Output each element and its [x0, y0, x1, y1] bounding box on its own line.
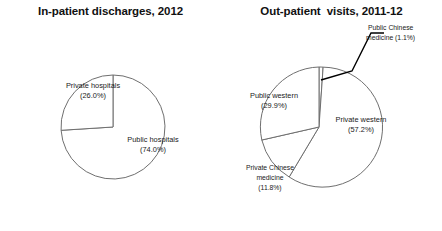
pie-label-private-chinese-medicine-value: (11.8%): [258, 184, 281, 192]
chart-panel-inpatient: In-patient discharges, 2012 Private hosp…: [0, 0, 221, 231]
pie-label-public-western-name: Public western: [250, 91, 298, 100]
pie-label-public-chinese-medicine-line1: Public Chinese: [368, 24, 414, 31]
pie-chart-inpatient: Private hospitals (26.0%) Public hospita…: [0, 0, 221, 231]
pie-label-private-chinese-medicine-line1: Private Chinese: [246, 164, 294, 171]
pie-label-private-western-value: (57.2%): [348, 125, 374, 134]
pie-chart-outpatient: Public western (29.9%) Private western (…: [221, 0, 442, 231]
pie-label-public-chinese-medicine-line2: medicine (1.1%): [366, 34, 415, 42]
pie-label-private-hospitals-value: (26.0%): [80, 91, 106, 100]
pie-label-private-chinese-medicine-line2: medicine: [256, 174, 283, 181]
pie-label-public-hospitals-value: (74.0%): [140, 145, 166, 154]
pie-label-private-hospitals-name: Private hospitals: [66, 81, 121, 90]
pie-label-public-western-value: (29.9%): [261, 101, 287, 110]
pie-label-private-western-name: Private western: [336, 115, 387, 124]
chart-panel-outpatient: Out-patient visits, 2011-12 Public weste…: [221, 0, 442, 231]
pie-label-public-hospitals-name: Public hospitals: [127, 135, 179, 144]
